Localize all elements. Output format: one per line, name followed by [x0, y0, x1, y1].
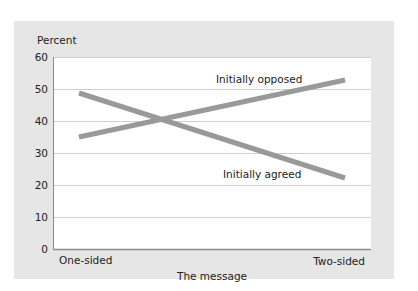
- y-axis-label: Percent: [37, 34, 77, 46]
- y-tick-30: 30: [35, 147, 48, 159]
- y-tick-20: 20: [35, 179, 48, 191]
- line-chart: 60 50 40 30 20 10 0 Percent One-sided Tw…: [0, 0, 418, 291]
- y-tick-50: 50: [35, 83, 48, 95]
- x-tick-two-sided: Two-sided: [312, 255, 365, 267]
- y-tick-10: 10: [35, 211, 48, 223]
- x-tick-one-sided: One-sided: [59, 254, 112, 266]
- series-label-initially-agreed: Initially agreed: [223, 168, 301, 180]
- y-tick-0: 0: [41, 243, 48, 255]
- y-tick-40: 40: [35, 115, 48, 127]
- series-label-initially-opposed: Initially opposed: [216, 73, 302, 85]
- x-axis-label: The message: [176, 270, 247, 282]
- y-tick-labels: 60 50 40 30 20 10 0: [35, 51, 48, 255]
- y-tick-60: 60: [35, 51, 48, 63]
